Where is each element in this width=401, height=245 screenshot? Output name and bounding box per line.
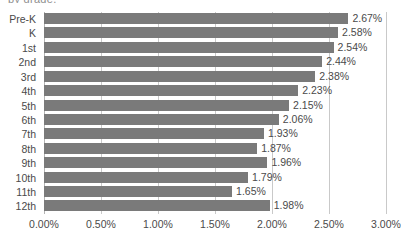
bar-10th xyxy=(44,172,248,183)
bar-value-label-K: 2.58% xyxy=(342,26,372,39)
bar-12th xyxy=(44,200,270,211)
bar-row: 1.65% xyxy=(44,185,386,199)
y-axis-label-5th: 5th xyxy=(0,99,40,113)
bar-row: 2.54% xyxy=(44,41,386,55)
bar-3rd xyxy=(44,71,315,82)
bar-9th xyxy=(44,157,267,168)
bar-Pre-K xyxy=(44,13,348,24)
bar-value-label-12th: 1.98% xyxy=(274,199,304,212)
y-axis-label-7th: 7th xyxy=(0,127,40,141)
y-axis-label-K: K xyxy=(0,26,40,40)
bar-4th xyxy=(44,85,298,96)
bar-row: 2.44% xyxy=(44,55,386,69)
bar-value-label-6th: 2.06% xyxy=(283,113,313,126)
bar-value-label-1st: 2.54% xyxy=(338,41,368,54)
plot-area: 2.67%2.58%2.54%2.44%2.38%2.23%2.15%2.06%… xyxy=(44,12,386,214)
x-axis-tick-1.50%: 1.50% xyxy=(200,218,230,230)
bar-value-label-8th: 1.87% xyxy=(261,142,291,155)
bar-row: 2.06% xyxy=(44,113,386,127)
bar-value-label-5th: 2.15% xyxy=(293,99,323,112)
bar-11th xyxy=(44,186,232,197)
bar-row: 2.67% xyxy=(44,12,386,26)
bar-K xyxy=(44,27,338,38)
x-axis-tick-2.00%: 2.00% xyxy=(257,218,287,230)
bar-value-label-11th: 1.65% xyxy=(236,185,266,198)
bar-value-label-7th: 1.93% xyxy=(268,127,298,140)
y-axis-label-12th: 12th xyxy=(0,199,40,213)
bar-row: 2.15% xyxy=(44,99,386,113)
bar-value-label-3rd: 2.38% xyxy=(319,70,349,83)
bar-row: 2.58% xyxy=(44,26,386,40)
gridline-3.00% xyxy=(386,12,387,214)
bar-6th xyxy=(44,114,279,125)
y-axis-label-4th: 4th xyxy=(0,84,40,98)
bar-row: 1.87% xyxy=(44,142,386,156)
y-axis-category-labels: Pre-KK1st2nd3rd4th5th6th7th8th9th10th11t… xyxy=(0,12,40,214)
bar-value-label-9th: 1.96% xyxy=(271,156,301,169)
bar-value-label-2nd: 2.44% xyxy=(326,55,356,68)
x-axis-tick-2.50%: 2.50% xyxy=(314,218,344,230)
bar-row: 1.98% xyxy=(44,199,386,213)
bar-1st xyxy=(44,42,334,53)
bar-row: 2.23% xyxy=(44,84,386,98)
bar-row: 1.93% xyxy=(44,127,386,141)
chart-title-clipped: by grade, xyxy=(8,0,57,3)
y-axis-label-1st: 1st xyxy=(0,41,40,55)
bar-row: 1.96% xyxy=(44,156,386,170)
bar-row: 2.38% xyxy=(44,70,386,84)
bar-8th xyxy=(44,143,257,154)
y-axis-label-6th: 6th xyxy=(0,113,40,127)
x-axis-tick-0.00%: 0.00% xyxy=(29,218,59,230)
bar-value-label-10th: 1.79% xyxy=(252,171,282,184)
bar-2nd xyxy=(44,56,322,67)
y-axis-label-8th: 8th xyxy=(0,142,40,156)
bar-5th xyxy=(44,100,289,111)
bar-series: 2.67%2.58%2.54%2.44%2.38%2.23%2.15%2.06%… xyxy=(44,12,386,214)
y-axis-label-3rd: 3rd xyxy=(0,70,40,84)
x-axis-tick-3.00%: 3.00% xyxy=(371,218,401,230)
x-axis-tick-1.00%: 1.00% xyxy=(143,218,173,230)
y-axis-label-10th: 10th xyxy=(0,171,40,185)
bar-value-label-Pre-K: 2.67% xyxy=(352,12,382,25)
y-axis-label-11th: 11th xyxy=(0,185,40,199)
y-axis-label-9th: 9th xyxy=(0,156,40,170)
bar-value-label-4th: 2.23% xyxy=(302,84,332,97)
x-axis-tick-labels: 0.00%0.50%1.00%1.50%2.00%2.50%3.00% xyxy=(0,218,398,234)
y-axis-label-Pre-K: Pre-K xyxy=(0,12,40,26)
bar-7th xyxy=(44,128,264,139)
y-axis-label-2nd: 2nd xyxy=(0,55,40,69)
bar-row: 1.79% xyxy=(44,171,386,185)
x-axis-tick-0.50%: 0.50% xyxy=(86,218,116,230)
